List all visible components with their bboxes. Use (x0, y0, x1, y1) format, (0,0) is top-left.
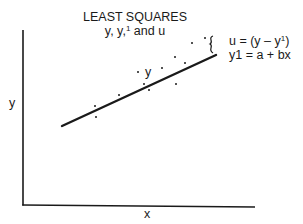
residual-equation: u = (y – y1) (229, 35, 289, 48)
data-point (94, 105, 96, 107)
x-axis-label: x (144, 208, 150, 221)
data-point (184, 62, 186, 64)
point-label: y (145, 66, 151, 79)
data-point (137, 71, 139, 73)
data-point (95, 116, 97, 118)
title-line2-prefix: y, y, (105, 24, 126, 38)
residual-brace-icon (210, 36, 213, 53)
x-axis (22, 205, 255, 207)
y-axis-label: y (9, 97, 15, 110)
title-line2-suffix: and u (130, 24, 165, 38)
fitted-line (62, 55, 216, 126)
residual-prefix: u = (y – y (229, 34, 281, 48)
data-point (175, 83, 177, 85)
data-point (118, 94, 120, 96)
data-point (174, 56, 176, 58)
data-point (161, 67, 163, 69)
residual-suffix: ) (285, 34, 289, 48)
line-equation: y1 = a + bx (229, 49, 291, 62)
data-point (143, 83, 145, 85)
title-line1: LEAST SQUARES (0, 11, 270, 24)
data-point (191, 42, 193, 44)
data-point (148, 89, 150, 91)
